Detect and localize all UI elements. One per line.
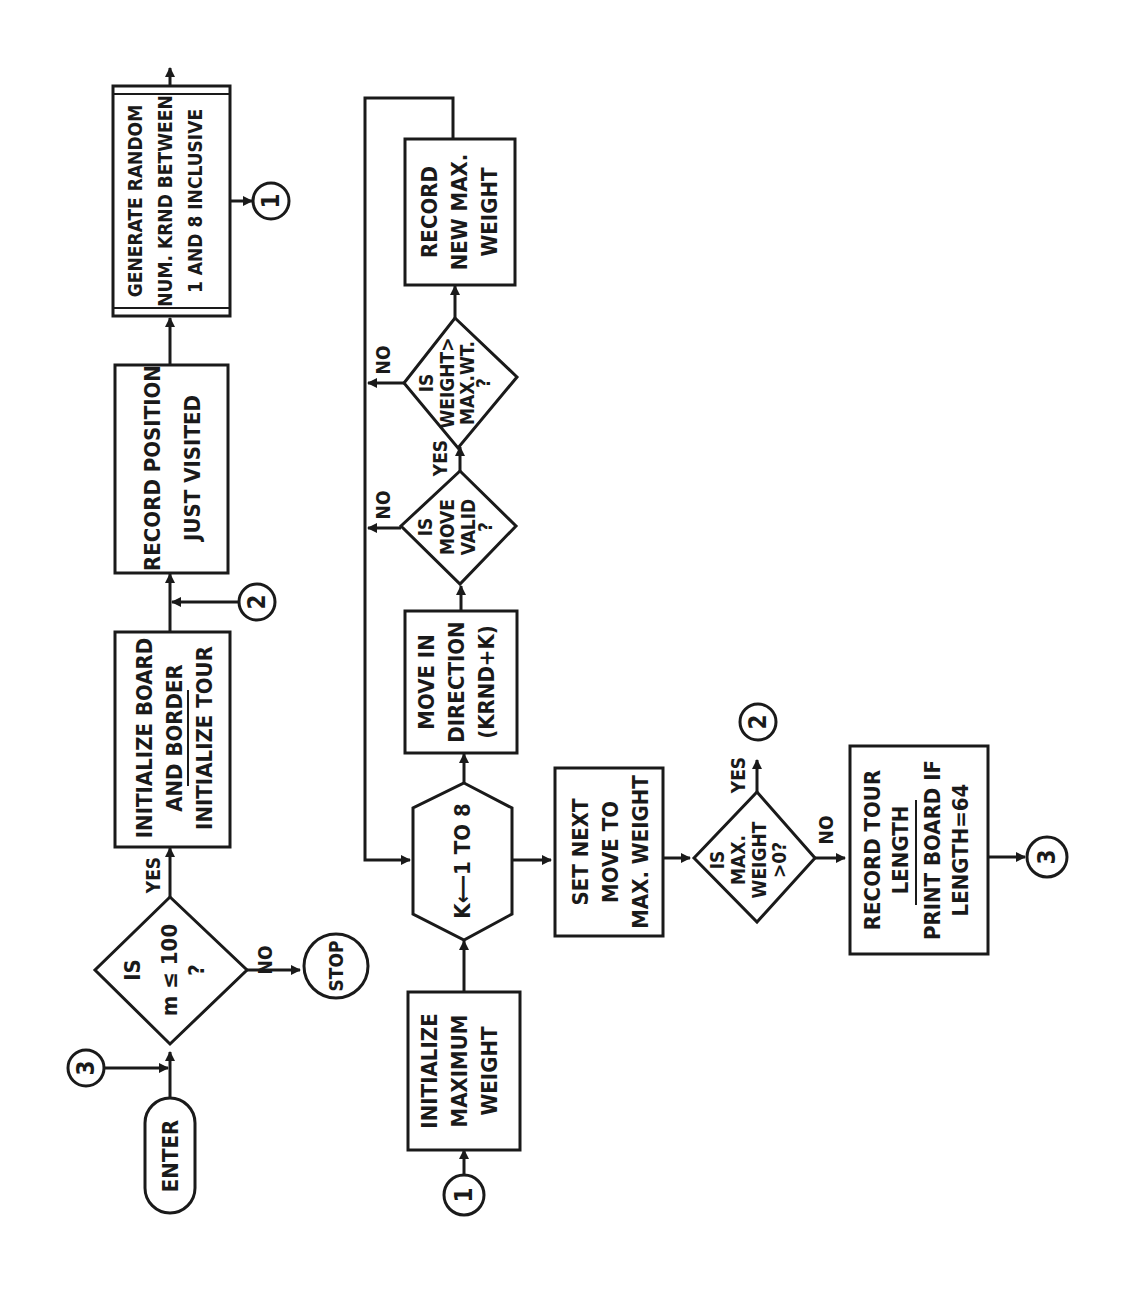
svg-text:NUM. KRND BETWEEN: NUM. KRND BETWEEN	[154, 95, 176, 306]
record-tour-box: RECORD TOUR LENGTH PRINT BOARD IF LENGTH…	[850, 746, 988, 954]
svg-text:AND BORDER: AND BORDER	[162, 664, 187, 812]
valid-no-label: NO	[372, 491, 394, 520]
decision-weight-gt-max: IS WEIGHT> MAX.WT. ?	[404, 318, 517, 448]
svg-text:2: 2	[243, 594, 271, 609]
svg-text:DIRECTION: DIRECTION	[444, 621, 469, 742]
svg-text:?: ?	[184, 964, 209, 975]
svg-text:PRINT BOARD IF: PRINT BOARD IF	[920, 760, 945, 940]
svg-text:LENGTH=64: LENGTH=64	[948, 784, 973, 917]
svg-text:WEIGHT: WEIGHT	[477, 1026, 502, 1116]
svg-text:(KRND+K): (KRND+K)	[474, 625, 499, 739]
svg-text:MOVE IN: MOVE IN	[414, 634, 439, 730]
svg-text:IS: IS	[414, 518, 436, 537]
decision-max-weight-gt-0: IS MAX. WEIGHT >0?	[694, 792, 815, 922]
svg-text:?: ?	[474, 522, 496, 532]
svg-text:MOVE: MOVE	[436, 499, 458, 555]
move-direction-box: MOVE IN DIRECTION (KRND+K)	[405, 611, 517, 753]
svg-text:JUST VISITED: JUST VISITED	[180, 395, 205, 543]
svg-text:WEIGHT: WEIGHT	[477, 167, 502, 257]
set-next-move-box: SET NEXT MOVE TO MAX. WEIGHT	[555, 768, 663, 936]
svg-text:NEW MAX.: NEW MAX.	[447, 154, 472, 271]
svg-text:MAX.: MAX.	[727, 835, 749, 885]
svg-text:LENGTH: LENGTH	[888, 806, 913, 895]
connector-3-out: 3	[1027, 837, 1067, 877]
svg-text:1: 1	[450, 1187, 478, 1202]
svg-text:>0?: >0?	[768, 842, 790, 878]
maxw-yes-label: YES	[727, 757, 749, 794]
svg-text:STOP: STOP	[325, 940, 347, 991]
connector-1-out: 1	[253, 183, 289, 219]
svg-text:?: ?	[472, 378, 494, 388]
record-new-max-box: RECORD NEW MAX. WEIGHT	[405, 139, 515, 285]
svg-text:INITIALIZE: INITIALIZE	[417, 1013, 442, 1128]
svg-text:3: 3	[72, 1060, 100, 1075]
svg-text:INITIALIZE TOUR: INITIALIZE TOUR	[192, 646, 217, 830]
svg-text:MAX. WEIGHT: MAX. WEIGHT	[628, 775, 653, 929]
svg-text:2: 2	[744, 714, 772, 729]
loop-k-hexagon: K⟵1 TO 8	[413, 783, 512, 940]
connector-1-in: 1	[444, 1175, 484, 1215]
svg-text:MAXIMUM: MAXIMUM	[447, 1014, 472, 1127]
svg-text:3: 3	[1033, 849, 1061, 864]
svg-text:1 AND 8 INCLUSIVE: 1 AND 8 INCLUSIVE	[184, 109, 206, 293]
initialize-board-box: INITIALIZE BOARD AND BORDER INITIALIZE T…	[115, 632, 230, 847]
connector-2-out: 2	[740, 704, 776, 740]
decision-m-le-100: IS m ≤ 100 ?	[95, 897, 247, 1044]
stop-terminal: STOP	[304, 934, 368, 998]
svg-text:GENERATE RANDOM: GENERATE RANDOM	[124, 105, 146, 297]
enter-label: ENTER	[158, 1120, 183, 1192]
decision-move-valid: IS MOVE VALID ?	[401, 471, 516, 584]
maxw-no-label: NO	[815, 816, 837, 845]
svg-text:IS: IS	[415, 374, 437, 393]
svg-text:RECORD TOUR: RECORD TOUR	[860, 770, 885, 930]
svg-text:RECORD: RECORD	[417, 166, 442, 258]
connector-3-in: 3	[68, 1050, 104, 1086]
valid-yes-label: YES	[429, 440, 451, 477]
svg-text:m ≤ 100: m ≤ 100	[157, 924, 182, 1016]
svg-text:IS: IS	[706, 851, 728, 870]
record-position-box: RECORD POSITION JUST VISITED	[115, 365, 228, 573]
svg-text:WEIGHT: WEIGHT	[748, 821, 770, 898]
svg-text:K⟵1 TO 8: K⟵1 TO 8	[450, 803, 475, 918]
svg-text:WEIGHT>: WEIGHT>	[436, 337, 458, 428]
m-no-label: NO	[254, 946, 276, 975]
svg-text:RECORD POSITION: RECORD POSITION	[140, 365, 165, 571]
svg-text:SET NEXT: SET NEXT	[568, 798, 593, 906]
initialize-max-weight-box: INITIALIZE MAXIMUM WEIGHT	[408, 992, 520, 1150]
svg-text:INITIALIZE BOARD: INITIALIZE BOARD	[132, 638, 157, 839]
m-yes-label: YES	[142, 857, 164, 894]
svg-text:IS: IS	[120, 959, 145, 981]
svg-text:1: 1	[257, 193, 285, 208]
connector-2-in: 2	[239, 584, 275, 620]
generate-random-box: GENERATE RANDOM NUM. KRND BETWEEN 1 AND …	[113, 86, 230, 316]
enter-terminal: ENTER	[145, 1098, 195, 1213]
flowchart-canvas: ENTER 3 IS m ≤ 100 ? YES NO STOP INITIAL…	[0, 0, 1132, 1300]
svg-text:MOVE TO: MOVE TO	[598, 801, 623, 903]
weight-no-label: NO	[372, 346, 394, 375]
